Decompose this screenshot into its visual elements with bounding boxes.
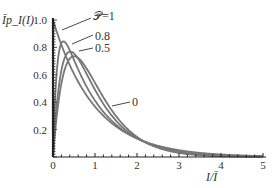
- x-tick-label: 2: [134, 159, 140, 171]
- leader-arrow-p1: [62, 18, 91, 30]
- y-axis-label: Īp_I(I): [1, 13, 34, 27]
- legend-label-p05: 0.5: [95, 41, 110, 55]
- legend-label-p1: 𝒫=1: [93, 9, 115, 23]
- intensity-pdf-chart: 0123450.20.40.60.81.0 Īp_I(I) I/Ī 𝒫=1 0.…: [0, 0, 277, 188]
- leader-arrow-p05: [79, 48, 93, 51]
- leader-arrow-p08: [72, 35, 93, 44]
- y-tick-label: 0.4: [33, 96, 47, 108]
- legend-label-p0: 0: [132, 95, 138, 109]
- curve-p-1: [53, 20, 263, 156]
- x-tick-label: 4: [218, 159, 224, 171]
- x-tick-label: 3: [176, 159, 182, 171]
- axes: 0123450.20.40.60.81.0: [33, 14, 266, 171]
- curve-p-0-8: [53, 41, 263, 157]
- y-tick-label: 1.0: [33, 14, 47, 26]
- x-tick-label: 5: [260, 159, 266, 171]
- y-tick-label: 0.2: [33, 124, 47, 136]
- curve-p-0-5: [53, 52, 263, 157]
- leader-arrow-p0: [112, 102, 130, 106]
- x-axis-label: I/Ī: [205, 170, 218, 184]
- curves: [53, 20, 263, 157]
- x-tick-label: 1: [92, 159, 98, 171]
- y-tick-label: 0.6: [33, 69, 47, 81]
- y-tick-label: 0.8: [33, 41, 47, 53]
- x-tick-label: 0: [50, 159, 56, 171]
